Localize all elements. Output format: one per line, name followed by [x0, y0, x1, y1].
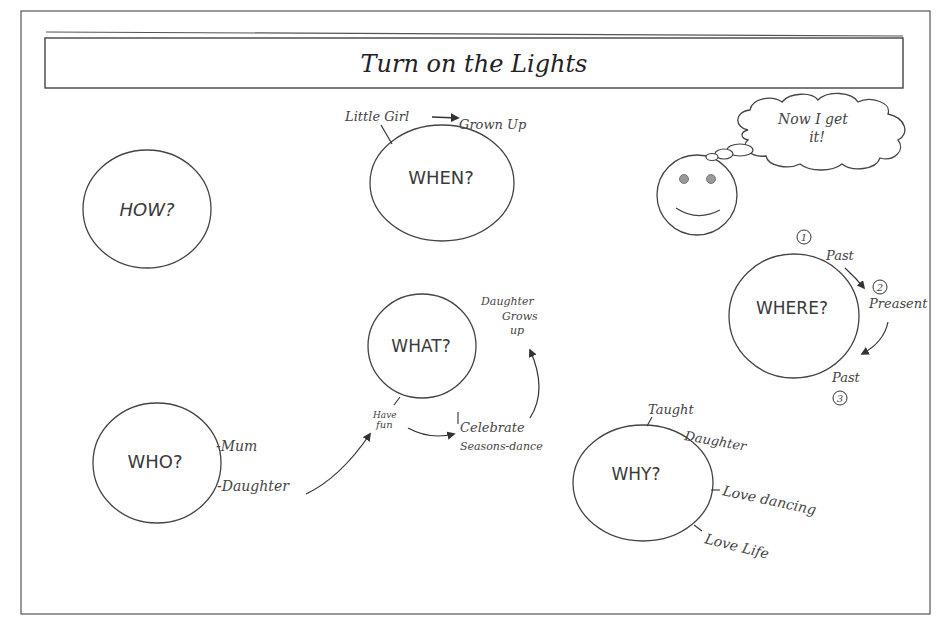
where-present: Preasent [868, 296, 928, 311]
thought-line-1: Now I get [777, 111, 848, 127]
why-taught: Taught [648, 402, 694, 417]
node-what: WHAT? Have fun Celebrate Seasons-dance D… [368, 294, 543, 453]
node-what-label: WHAT? [391, 336, 450, 356]
what-have-fun-2: fun [375, 419, 393, 430]
connector [394, 397, 400, 405]
node-where: WHERE? 1 Past 2 Preasent Past 3 [729, 230, 928, 405]
what-celebrate: Celebrate [460, 420, 525, 435]
node-where-label: WHERE? [756, 298, 828, 318]
where-past-2: Past [831, 370, 861, 385]
eye-icon [680, 175, 689, 184]
node-when: WHEN? Little Girl Grown Up [344, 109, 527, 241]
mind-map-sheet: Turn on the Lights HOW? WHEN? Little Gir… [0, 0, 942, 632]
title-rule [46, 32, 903, 36]
node-why: WHY? Taught Daughter Love dancing Love L… [573, 402, 818, 562]
page-title: Turn on the Lights [361, 50, 588, 78]
when-from-label: Little Girl [344, 109, 409, 124]
connector [381, 125, 392, 144]
what-grows-2: Grows [502, 310, 538, 323]
when-to-label: Grown Up [459, 117, 527, 132]
where-step-2: 2 [876, 282, 883, 293]
what-seasons: Seasons-dance [460, 440, 543, 453]
why-love-dancing: Love dancing [720, 482, 817, 518]
who-mum: -Mum [216, 438, 257, 454]
what-grows-1: Daughter [480, 295, 535, 308]
smiley-face [657, 155, 737, 235]
node-who: WHO? -Mum -Daughter [93, 403, 370, 523]
node-why-label: WHY? [612, 464, 661, 484]
where-past-1: Past [825, 248, 855, 263]
node-who-label: WHO? [127, 451, 182, 472]
why-love-life: Love Life [702, 530, 771, 562]
where-step-3: 3 [837, 393, 843, 404]
connector [694, 525, 702, 531]
who-daughter: -Daughter [217, 478, 290, 494]
where-step-1: 1 [801, 232, 807, 243]
when-arrow [432, 117, 458, 118]
thought-line-2: it! [809, 129, 825, 145]
node-when-label: WHEN? [408, 167, 474, 188]
eye-icon [707, 175, 716, 184]
why-daughter: Daughter [682, 428, 748, 454]
thought-bubble: Now I get it! [706, 93, 905, 170]
node-how-label: HOW? [119, 199, 175, 220]
node-how: HOW? [83, 150, 211, 268]
what-grows-3: up [510, 324, 524, 337]
